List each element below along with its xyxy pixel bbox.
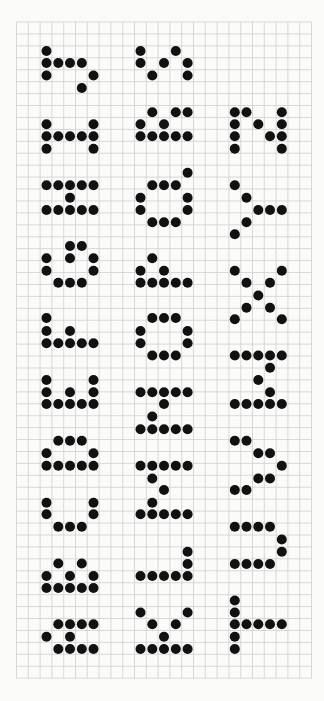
dot [65, 205, 75, 215]
dot [53, 436, 63, 446]
dot [53, 338, 63, 348]
dot [147, 71, 157, 81]
dot [253, 375, 263, 385]
dot [77, 58, 87, 68]
dot [265, 448, 275, 458]
dot [65, 241, 75, 251]
dot [171, 131, 181, 141]
dot [230, 144, 240, 154]
dot [147, 313, 157, 323]
dot [159, 217, 169, 227]
dot [183, 58, 193, 68]
dot [265, 205, 275, 215]
dot [159, 485, 169, 495]
dot [159, 180, 169, 190]
dot [277, 119, 287, 129]
dot [159, 632, 169, 642]
dot [230, 608, 240, 618]
dot [89, 387, 99, 397]
dot [147, 351, 157, 361]
dot [136, 571, 146, 581]
dot [89, 509, 99, 519]
dot [230, 399, 240, 409]
dot [65, 461, 75, 471]
dot [42, 448, 52, 458]
dot [136, 119, 146, 129]
dot [65, 619, 75, 629]
dot [265, 399, 275, 409]
dot [89, 583, 99, 593]
dot [265, 303, 275, 313]
dot [65, 338, 75, 348]
dot [65, 399, 75, 409]
dot [77, 436, 87, 446]
dot [230, 180, 240, 190]
dot [147, 217, 157, 227]
dot [171, 217, 181, 227]
dot [89, 619, 99, 629]
dot [242, 619, 252, 629]
dot [89, 71, 99, 81]
dot [53, 278, 63, 288]
dot [65, 326, 75, 336]
dot [159, 387, 169, 397]
dot [171, 313, 181, 323]
dot [89, 131, 99, 141]
dot [89, 571, 99, 581]
dot [89, 448, 99, 458]
dot [253, 291, 263, 301]
dot [136, 338, 146, 348]
dot [42, 253, 52, 263]
dot [242, 351, 252, 361]
dot [136, 644, 146, 654]
dot [65, 253, 75, 263]
dot [265, 387, 275, 397]
dot [230, 644, 240, 654]
dot [42, 375, 52, 385]
dot [136, 387, 146, 397]
dot [77, 461, 87, 471]
dot [77, 83, 87, 93]
dot [171, 644, 181, 654]
dot [147, 644, 157, 654]
dot [42, 71, 52, 81]
dot [277, 619, 287, 629]
dot [53, 559, 63, 569]
dot [183, 644, 193, 654]
dot [147, 571, 157, 581]
dot [183, 547, 193, 557]
dot [230, 632, 240, 642]
dot [42, 205, 52, 215]
dot [242, 303, 252, 313]
dot [230, 229, 240, 239]
dot [77, 559, 87, 569]
dot [53, 461, 63, 471]
dot [42, 313, 52, 323]
dot [183, 509, 193, 519]
dot [147, 461, 157, 471]
dot [230, 596, 240, 606]
dot [42, 131, 52, 141]
dot [183, 424, 193, 434]
dot [277, 461, 287, 471]
dot [136, 461, 146, 471]
dot [265, 278, 275, 288]
dot [265, 131, 275, 141]
dot [253, 522, 263, 532]
dot [42, 266, 52, 276]
dot [171, 180, 181, 190]
dot [265, 619, 275, 629]
dot [147, 180, 157, 190]
dot [147, 474, 157, 484]
dot [171, 278, 181, 288]
dot [147, 253, 157, 263]
dot [277, 205, 287, 215]
dot [77, 278, 87, 288]
dot [183, 71, 193, 81]
dot [42, 583, 52, 593]
dot [265, 474, 275, 484]
dot [53, 522, 63, 532]
dot [42, 338, 52, 348]
dot [230, 559, 240, 569]
dot [65, 180, 75, 190]
